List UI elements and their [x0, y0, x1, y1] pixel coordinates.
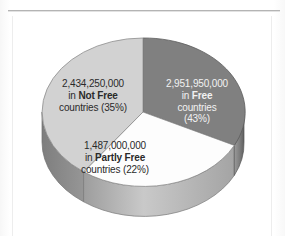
pie-label-free-percent: (43%) [147, 113, 247, 125]
pie-label-not-free-name: in Not Free [38, 90, 148, 102]
horizontal-rule-shadow [8, 11, 280, 12]
panel-edge-right [271, 16, 272, 236]
pie-chart: 2,434,250,000 in Not Free countries (35%… [13, 16, 271, 236]
pie-chart-graphic [13, 16, 271, 236]
pie-label-free-name: in Free [147, 90, 247, 102]
pie-label-free-value: 2,951,950,000 [147, 78, 247, 90]
pie-label-partly-free-value: 1,487,000,000 [54, 140, 176, 152]
pie-label-partly-free-name: in Partly Free [54, 152, 176, 164]
pie-label-partly-free: 1,487,000,000 in Partly Free countries (… [54, 140, 176, 175]
pie-label-not-free-percent: countries (35%) [38, 102, 148, 114]
pie-label-not-free: 2,434,250,000 in Not Free countries (35%… [38, 78, 148, 113]
pie-label-partly-free-percent: countries (22%) [54, 164, 176, 176]
pie-label-free-suffix: countries [147, 102, 247, 114]
pie-label-free: 2,951,950,000 in Free countries (43%) [147, 78, 247, 125]
pie-label-not-free-value: 2,434,250,000 [38, 78, 148, 90]
document-page: 2,434,250,000 in Not Free countries (35%… [0, 0, 285, 236]
